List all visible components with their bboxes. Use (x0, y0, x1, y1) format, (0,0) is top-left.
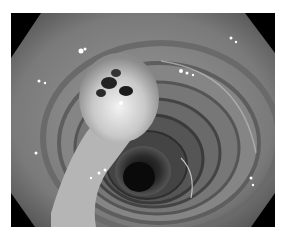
endoscopy-scene (11, 13, 275, 227)
endoscopy-image (11, 13, 275, 227)
